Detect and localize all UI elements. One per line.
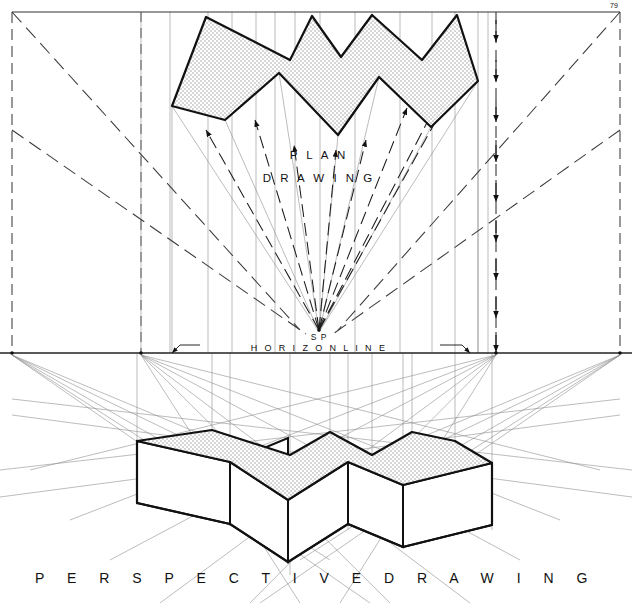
sp-ray-right-a bbox=[319, 140, 366, 330]
horizon-line-label: H O R I Z O N L I N E bbox=[251, 343, 388, 353]
perspective-title: P E R S P E C T I V E D R A W I N G bbox=[35, 570, 597, 586]
vp-far-right-dot bbox=[618, 351, 622, 355]
sp-ray-right-b bbox=[319, 108, 407, 330]
diagonal-left-lower bbox=[12, 130, 306, 334]
vp-ray bbox=[415, 355, 620, 440]
plan-title-group: P L A N D R A W I N G bbox=[263, 149, 375, 184]
station-point-label: S P bbox=[311, 332, 328, 342]
plan-title-line2: D R A W I N G bbox=[263, 172, 375, 184]
station-point: S P bbox=[311, 328, 328, 342]
sight-line bbox=[172, 106, 319, 332]
vp-far-left-dot bbox=[10, 351, 14, 355]
drawing-sheet: 79 bbox=[0, 0, 632, 603]
sight-line bbox=[279, 73, 319, 332]
page-number-text: 79 bbox=[610, 2, 618, 9]
perspective-solid bbox=[137, 430, 492, 562]
horizon-leader-left bbox=[172, 345, 200, 353]
perspective-title-group: P E R S P E C T I V E D R A W I N G bbox=[35, 570, 597, 586]
diagonal-right-lower bbox=[333, 130, 620, 334]
vp-left-dot bbox=[139, 351, 143, 355]
vp-right-dot bbox=[494, 351, 498, 355]
vp-ray bbox=[12, 355, 215, 440]
page-number: 79 bbox=[610, 2, 618, 9]
plan-title-line1: P L A N bbox=[290, 149, 349, 161]
perspective-construction-plate: 79 bbox=[0, 0, 632, 603]
horizon-line-group: H O R I Z O N L I N E bbox=[0, 343, 632, 355]
